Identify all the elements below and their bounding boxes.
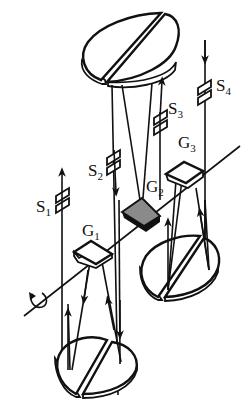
rotation-axis xyxy=(24,146,240,316)
label-s4: S4 xyxy=(216,76,231,97)
svg-text:S4: S4 xyxy=(216,76,231,97)
label-g1: G1 xyxy=(82,221,100,242)
label-s3: S3 xyxy=(168,99,183,120)
mirror-top xyxy=(82,13,179,87)
label-g3: G3 xyxy=(178,133,196,154)
plate-g2 xyxy=(122,198,160,232)
optical-diagram: S1 S2 S3 S4 G1 G2 G3 xyxy=(0,0,250,413)
svg-text:S1: S1 xyxy=(36,197,51,218)
plate-g1 xyxy=(74,241,112,268)
svg-text:S2: S2 xyxy=(88,161,103,182)
label-g2: G2 xyxy=(146,177,164,198)
svg-text:G3: G3 xyxy=(178,133,196,154)
plate-g3 xyxy=(166,162,203,188)
diagram-canvas: S1 S2 S3 S4 G1 G2 G3 xyxy=(0,0,250,413)
svg-text:G2: G2 xyxy=(146,177,164,198)
svg-text:G1: G1 xyxy=(82,221,100,242)
svg-text:S3: S3 xyxy=(168,99,183,120)
label-s1: S1 xyxy=(36,197,51,218)
label-s2: S2 xyxy=(88,161,103,182)
